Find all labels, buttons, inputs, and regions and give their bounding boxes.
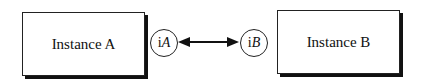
instance-b-label: Instance B: [307, 34, 371, 51]
port-ib: iB: [240, 29, 268, 57]
port-ib-name: B: [252, 35, 261, 51]
instance-b-box: Instance B: [277, 10, 400, 74]
